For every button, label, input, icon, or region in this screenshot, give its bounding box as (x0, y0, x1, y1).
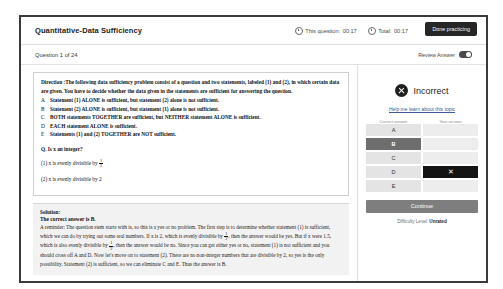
choice-c: C BOTH statements TOGETHER are sufficien… (41, 113, 341, 122)
option-d-correct-cell[interactable]: D (366, 166, 421, 178)
review-answer-toggle[interactable] (459, 51, 472, 58)
answer-row-c: C (366, 152, 478, 164)
difficulty-value: Unrated (429, 219, 446, 224)
choice-b: B Statement (2) ALONE is sufficient, but… (41, 105, 341, 114)
statement-1: (1) x is evenly divisible by 1 2 (41, 159, 341, 169)
clock-icon (368, 27, 376, 35)
option-e-your-cell (423, 180, 478, 192)
total-timer: Total: 00:17 (368, 27, 408, 35)
choice-c-text: BOTH statements TOGETHER are sufficient,… (50, 113, 261, 122)
review-answer-label: Review Answer (418, 52, 455, 58)
answer-row-b: B (366, 138, 478, 150)
window-body: Direction :The following data sufficienc… (21, 65, 486, 283)
result-status-row: Incorrect (366, 84, 478, 97)
help-me-learn-link[interactable]: Help me learn about this topic (366, 106, 478, 112)
statement-1-fraction: 1 2 (99, 159, 103, 169)
choice-e-text: Statements (1) and (2) TOGETHER are NOT … (50, 130, 176, 139)
practice-window: Quantitative-Data Sufficiency This quest… (19, 15, 488, 283)
option-b-correct-cell[interactable]: B (366, 138, 421, 150)
answer-row-e: E (366, 180, 478, 192)
question-card: Direction :The following data sufficienc… (33, 72, 349, 196)
option-d-your-answer-mark: ✕ (423, 166, 478, 178)
choice-c-letter: C (41, 113, 46, 122)
app-root: Quantitative-Data Sufficiency This quest… (0, 0, 503, 289)
timers-group: This question: 00:17 Total: 00:17 (295, 27, 408, 35)
statement-2: (2) x is evenly divisible by 2 (41, 176, 341, 182)
done-practicing-button[interactable]: Done practicing (425, 22, 477, 36)
this-question-timer: This question: 00:17 (295, 27, 357, 35)
direction-paragraph: Direction :The following data sufficienc… (41, 78, 341, 95)
page-title: Quantitative-Data Sufficiency (35, 26, 142, 35)
option-c-correct-cell[interactable]: C (366, 152, 421, 164)
result-panel: Incorrect Help me learn about this topic… (357, 65, 486, 283)
window-header: Quantitative-Data Sufficiency This quest… (21, 17, 486, 45)
this-question-timer-label: This question: (305, 28, 340, 34)
solution-correct-answer: The correct answer is B. (40, 216, 342, 222)
choice-d-text: EACH statement ALONE is sufficient. (50, 122, 137, 131)
choice-a-letter: A (41, 96, 46, 105)
statement-1-text: (1) x is evenly divisible by (41, 160, 98, 166)
solution-section: Solution: The correct answer is B. A rem… (33, 203, 349, 275)
review-answer-control[interactable]: Review Answer (418, 51, 472, 58)
question-counter: Question 1 of 24 (35, 52, 78, 58)
question-stem: Q. Is x an integer? (41, 146, 341, 152)
solution-explanation: A reminder: The question stem starts wit… (40, 223, 342, 269)
direction-label: Direction : (41, 79, 65, 85)
option-c-your-cell (423, 152, 478, 164)
choice-b-letter: B (41, 105, 46, 114)
result-status-text: Incorrect (413, 86, 448, 96)
question-pane: Direction :The following data sufficienc… (21, 65, 357, 283)
choice-e-letter: E (41, 130, 46, 139)
total-timer-value: 00:17 (394, 28, 408, 34)
answer-row-d: D ✕ (366, 166, 478, 178)
continue-button[interactable]: Continue (366, 200, 478, 213)
clock-icon (295, 27, 303, 35)
choice-a: A Statement (1) ALONE is sufficient, but… (41, 96, 341, 105)
solution-title: Solution: (40, 209, 342, 215)
option-e-correct-cell[interactable]: E (366, 180, 421, 192)
option-b-your-cell (423, 138, 478, 150)
total-timer-label: Total: (378, 28, 391, 34)
choice-a-text: Statement (1) ALONE is sufficient, but s… (50, 96, 219, 105)
question-subheader: Question 1 of 24 Review Answer (21, 45, 486, 65)
choice-d-letter: D (41, 122, 46, 131)
fraction-denominator: 2 (99, 164, 103, 168)
choice-d: D EACH statement ALONE is sufficient. (41, 122, 341, 131)
this-question-timer-value: 00:17 (343, 28, 357, 34)
option-a-correct-cell[interactable]: A (366, 124, 421, 136)
option-a-your-cell (423, 124, 478, 136)
choice-b-text: Statement (2) ALONE is sufficient, but s… (50, 105, 219, 114)
direction-text: The following data sufficiency problem c… (41, 79, 339, 94)
answer-row-a: A (366, 124, 478, 136)
choice-e: E Statements (1) and (2) TOGETHER are NO… (41, 130, 341, 139)
difficulty-level: Difficulty Level: Unrated (366, 219, 478, 224)
x-circle-icon (395, 84, 408, 97)
difficulty-label: Difficulty Level: (397, 219, 428, 224)
